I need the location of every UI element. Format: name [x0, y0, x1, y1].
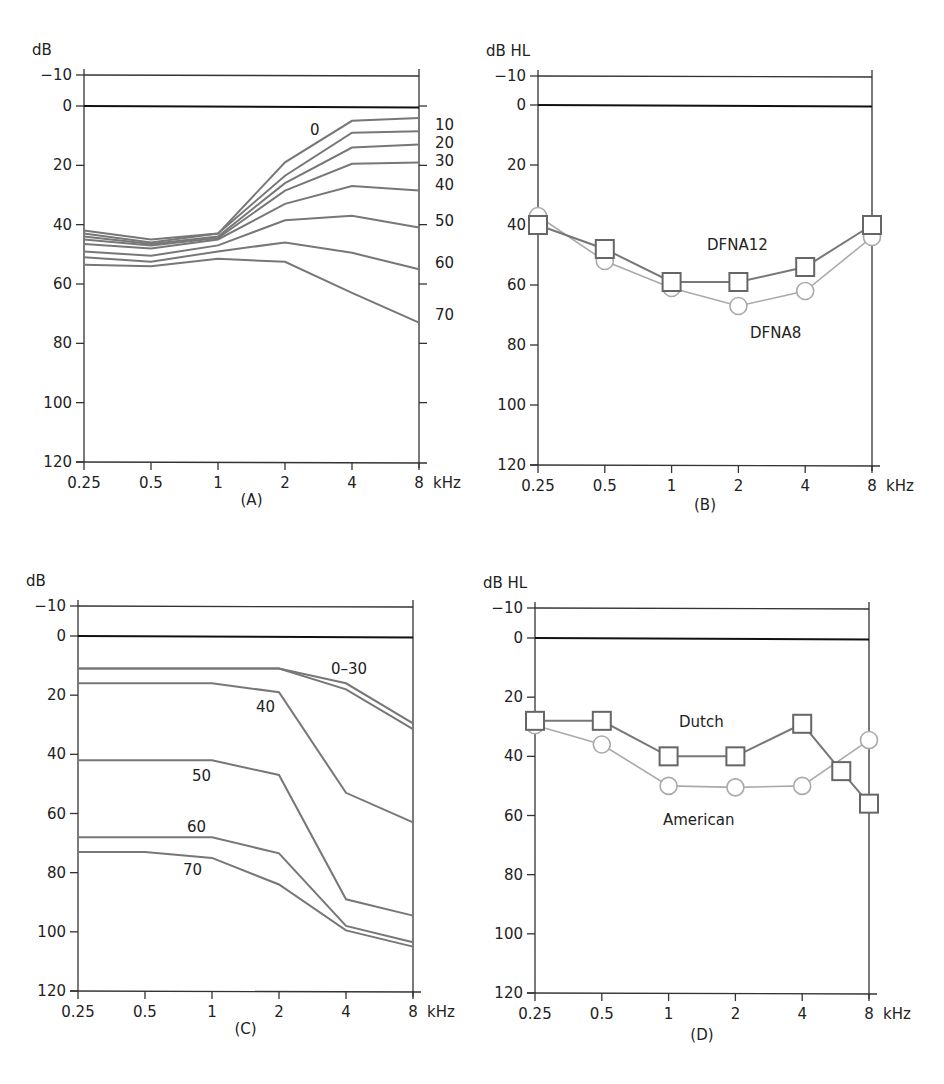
minus-ten-line: [535, 608, 869, 609]
x-tick-label: 4: [797, 1005, 807, 1023]
circle-marker: [727, 779, 744, 796]
circle-marker: [660, 777, 677, 794]
square-marker: [593, 712, 611, 730]
square-marker: [526, 712, 544, 730]
y-tick-label: −10: [491, 599, 523, 617]
circle-marker: [861, 732, 878, 749]
square-marker: [726, 747, 744, 765]
x-tick-label: 1: [664, 1005, 674, 1023]
square-marker: [860, 795, 878, 813]
x-tick-label: 0.25: [518, 1005, 551, 1023]
y-tick-label: 120: [494, 984, 523, 1002]
panel-label: (D): [690, 1026, 713, 1044]
y-tick-label: 60: [504, 807, 523, 825]
x-tick-label: 8: [864, 1005, 874, 1023]
y-axis-unit-label: dB HL: [483, 574, 528, 592]
dutch-label: Dutch: [679, 713, 724, 731]
zero-db-line: [535, 638, 869, 640]
square-marker: [832, 762, 850, 780]
y-tick-label: 20: [504, 688, 523, 706]
x-tick-label: 2: [731, 1005, 741, 1023]
square-marker: [660, 747, 678, 765]
panel-d-chart: dB HL−100204060801001200.250.51248kHz(D)…: [0, 0, 944, 1084]
circle-marker: [794, 777, 811, 794]
american-label: American: [663, 811, 734, 829]
circle-marker: [593, 736, 610, 753]
y-tick-label: 0: [513, 629, 523, 647]
y-tick-label: 80: [504, 866, 523, 884]
y-tick-label: 40: [504, 747, 523, 765]
x-axis-unit-label: kHz: [883, 1005, 911, 1023]
x-tick-label: 0.5: [590, 1005, 614, 1023]
x-axis: [527, 993, 877, 994]
square-series-line: [535, 721, 869, 804]
square-marker: [793, 715, 811, 733]
y-tick-label: 100: [494, 925, 523, 943]
panel-d: dB HL−100204060801001200.250.51248kHz(D)…: [0, 0, 944, 1084]
